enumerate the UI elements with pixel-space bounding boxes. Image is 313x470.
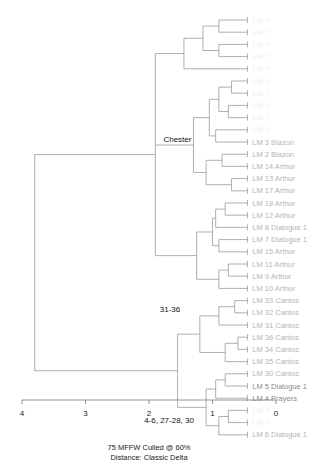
leaf-label: LM ? [252, 113, 269, 122]
leaf-label: LM ? [252, 418, 269, 427]
tick-label: 2 [147, 409, 152, 418]
cluster-label: 31-36 [160, 305, 181, 314]
dendrogram-chart: LM ?LM ?LM ?LM ?LM ?LM ?LM ?LM ?LM ?LM ?… [0, 0, 313, 470]
leaf-labels: LM ?LM ?LM ?LM ?LM ?LM ?LM ?LM ?LM ?LM ?… [252, 16, 307, 440]
leaf-label: LM ? [252, 28, 269, 37]
leaf-label: LM ? [252, 16, 269, 25]
leaf-label: LM 35 Cantos [252, 357, 299, 366]
leaf-label: LM 33 Cantos [252, 296, 299, 305]
tick-label: 3 [83, 409, 88, 418]
leaf-label: LM 3 Blazon [252, 138, 294, 147]
leaf-label: LM 7 Dialogue 1 [252, 235, 307, 244]
caption-line-2: Distance: Classic Delta [110, 453, 188, 462]
leaf-label: LM 15 Arthur [252, 247, 295, 256]
leaf-label: LM 31 Cantos [252, 321, 299, 330]
leaf-label: LM 13 Arthur [252, 174, 295, 183]
cluster-label: Chester [163, 135, 191, 144]
leaf-label: LM ? [252, 64, 269, 73]
leaf-label: LM ? [252, 52, 269, 61]
leaf-label: LM 14 Arthur [252, 162, 295, 171]
leaf-label: LM ? [252, 89, 269, 98]
tick-label: 4 [20, 409, 25, 418]
leaf-label: LM 8 Dialogue 1 [252, 223, 307, 232]
leaf-label: LM 32 Cantos [252, 308, 299, 317]
leaf-label: LM 30 Cantos [252, 369, 299, 378]
leaf-label: LM 6 Dialogue 1 [252, 430, 307, 439]
leaf-label: LM 9 Arthur [252, 272, 291, 281]
leaf-label: LM 36 Cantos [252, 333, 299, 342]
leaf-label: LM 4 Prayers [252, 394, 297, 403]
tick-label: 0 [274, 409, 279, 418]
dendrogram-branches [35, 17, 248, 438]
axis-ticks: 43210 [20, 400, 279, 418]
leaf-label: LM 2 Blazon [252, 150, 294, 159]
leaf-label: LM 5 Dialogue 1 [252, 382, 307, 391]
leaf-label: LM ? [252, 77, 269, 86]
cluster-labels: Chester31-364-6, 27-28, 30 [144, 135, 194, 425]
leaf-label: LM 34 Cantos [252, 345, 299, 354]
leaf-label: LM 18 Arthur [252, 199, 295, 208]
leaf-label: LM ? [252, 406, 269, 415]
leaf-label: LM ? [252, 101, 269, 110]
leaf-label: LM 12 Arthur [252, 211, 295, 220]
tick-label: 1 [210, 409, 215, 418]
leaf-label: LM ? [252, 40, 269, 49]
leaf-label: LM ? [252, 125, 269, 134]
leaf-label: LM 10 Arthur [252, 284, 295, 293]
cluster-label: 4-6, 27-28, 30 [144, 416, 194, 425]
leaf-label: LM 11 Arthur [252, 260, 295, 269]
caption-line-1: 75 MFFW Culled @ 60% [107, 443, 190, 452]
leaf-label: LM 17 Arthur [252, 186, 295, 195]
